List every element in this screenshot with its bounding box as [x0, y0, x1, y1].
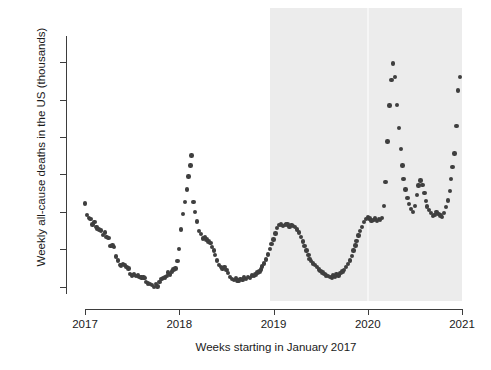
data-point [415, 193, 419, 197]
data-point [399, 147, 403, 151]
data-point [185, 187, 189, 191]
data-point [395, 103, 399, 107]
data-point [449, 177, 453, 181]
data-point [397, 126, 401, 130]
x-tick-label: 2020 [338, 318, 398, 330]
data-point [346, 262, 350, 266]
data-point [407, 202, 411, 206]
y-tick [60, 212, 66, 213]
data-point [193, 210, 197, 214]
x-tick [85, 309, 86, 315]
y-axis-line [66, 36, 67, 294]
data-point [273, 231, 277, 235]
data-point [179, 227, 183, 231]
data-point [351, 248, 355, 252]
y-axis-title: Weekly all-cause deaths in the US (thous… [35, 2, 47, 292]
y-tick [60, 287, 66, 288]
data-point [401, 177, 405, 181]
data-point [155, 284, 159, 288]
x-tick [368, 309, 369, 315]
data-point [387, 103, 391, 107]
data-point [383, 180, 387, 184]
y-tick [60, 100, 66, 101]
data-point [418, 178, 422, 182]
data-point [446, 198, 450, 202]
data-point [175, 259, 179, 263]
y-tick [60, 137, 66, 138]
y-tick-label: 75 [0, 99, 1, 139]
data-point [112, 245, 116, 249]
y-tick-label: 65 [0, 174, 1, 214]
data-point [391, 61, 395, 65]
data-point [116, 258, 120, 262]
data-point [458, 75, 462, 79]
data-point [454, 124, 458, 128]
data-point [262, 261, 266, 265]
scatter-plot-area [66, 8, 486, 301]
data-point [456, 88, 460, 92]
data-point [348, 258, 352, 262]
data-point [173, 266, 177, 270]
data-point [382, 204, 386, 208]
data-point [380, 216, 384, 220]
data-point [354, 239, 358, 243]
data-point [413, 204, 417, 208]
data-point [269, 242, 273, 246]
data-point [183, 200, 187, 204]
data-point [266, 252, 270, 256]
data-point [353, 243, 357, 247]
data-point [271, 237, 275, 241]
y-tick-label: 70 [0, 137, 1, 177]
data-point [215, 258, 219, 262]
data-point [83, 201, 87, 205]
data-point [213, 253, 217, 257]
data-point [356, 233, 360, 237]
data-point [411, 210, 415, 214]
data-point [448, 189, 452, 193]
data-point [444, 205, 448, 209]
data-point [442, 211, 446, 215]
y-tick-label: 80 [0, 62, 1, 102]
y-tick-label: 50 [0, 286, 1, 326]
data-point [405, 196, 409, 200]
data-point [452, 151, 456, 155]
x-tick [462, 309, 463, 315]
y-tick-label: 55 [0, 249, 1, 289]
data-point [188, 163, 192, 167]
data-point [186, 174, 190, 178]
data-point [106, 236, 110, 240]
data-point [92, 220, 96, 224]
y-tick [60, 62, 66, 63]
x-tick [179, 309, 180, 315]
x-axis-title: Weeks starting in January 2017 [66, 341, 486, 353]
data-point [440, 215, 444, 219]
x-tick-label: 2019 [244, 318, 304, 330]
data-point [177, 247, 181, 251]
data-point [191, 200, 195, 204]
data-point [450, 165, 454, 169]
y-tick [60, 249, 66, 250]
y-tick-label: 60 [0, 211, 1, 251]
data-point [264, 257, 268, 261]
y-tick [60, 174, 66, 175]
x-tick-label: 2018 [149, 318, 209, 330]
data-point [424, 199, 428, 203]
chart-figure: 50556065707580 20172018201920202021 Week… [0, 0, 491, 370]
data-point [393, 75, 397, 79]
data-point [350, 254, 354, 258]
data-point [400, 163, 404, 167]
data-point [422, 191, 426, 195]
data-point [385, 139, 389, 143]
data-point [189, 153, 193, 157]
data-point [181, 212, 185, 216]
x-tick-label: 2017 [55, 318, 115, 330]
x-tick [274, 309, 275, 315]
data-point [126, 266, 130, 270]
data-point [360, 225, 364, 229]
data-point [268, 247, 272, 251]
data-point [195, 219, 199, 223]
x-tick-label: 2021 [432, 318, 491, 330]
data-point [358, 229, 362, 233]
data-point [403, 187, 407, 191]
data-point [420, 183, 424, 187]
